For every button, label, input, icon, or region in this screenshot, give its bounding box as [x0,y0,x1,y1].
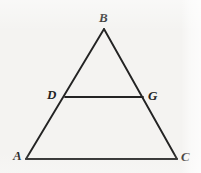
segment-ab [26,29,104,159]
triangle-diagram-canvas [0,0,201,173]
vertex-label-b: B [99,11,108,24]
vertex-label-a: A [13,149,22,162]
geometry-figure: B D G A C [0,0,201,173]
vertex-label-g: G [148,89,157,102]
vertex-label-d: D [47,88,56,101]
vertex-label-c: C [181,150,190,163]
segment-bc [104,29,177,159]
